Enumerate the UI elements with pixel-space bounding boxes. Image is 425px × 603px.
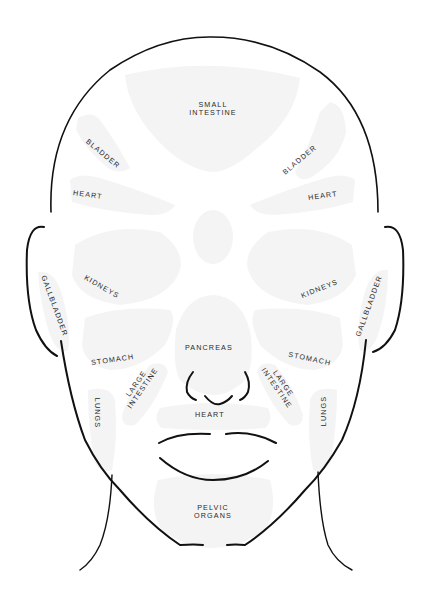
label-heart-center: HEART [195, 411, 225, 419]
label-lungs-right: LUNGS [320, 396, 328, 426]
zone-kidneys-left [72, 229, 181, 305]
label-text: HEART [195, 411, 225, 419]
label-pelvic-organs: PELVIC ORGANS [189, 504, 237, 520]
label-line-2: ORGANS [189, 512, 237, 520]
neck-right [318, 472, 352, 570]
label-pancreas: PANCREAS [185, 344, 233, 352]
zone-brow-center [193, 210, 233, 264]
zone-bladder-right [295, 102, 346, 179]
neck-left [80, 475, 112, 570]
label-text: PANCREAS [185, 344, 233, 352]
zone-small-intestine [125, 66, 300, 172]
upper-lip-right [226, 433, 276, 443]
label-lungs-left: LUNGS [93, 398, 101, 428]
label-small-intestine: SMALL INTESTINE [183, 101, 243, 117]
zone-heart-right [250, 175, 355, 215]
face-map-diagram: SMALL INTESTINE BLADDER BLADDER HEART HE… [0, 0, 425, 603]
upper-lip-left [159, 434, 210, 443]
label-text: LUNGS [93, 398, 101, 428]
label-text: LUNGS [320, 396, 328, 426]
label-line-2: INTESTINE [183, 109, 243, 117]
